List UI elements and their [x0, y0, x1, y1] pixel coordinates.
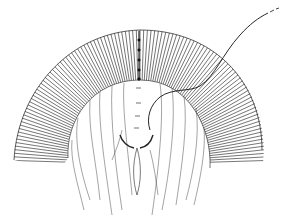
anatomical-illustration — [0, 0, 290, 223]
central-spindle — [120, 135, 153, 195]
